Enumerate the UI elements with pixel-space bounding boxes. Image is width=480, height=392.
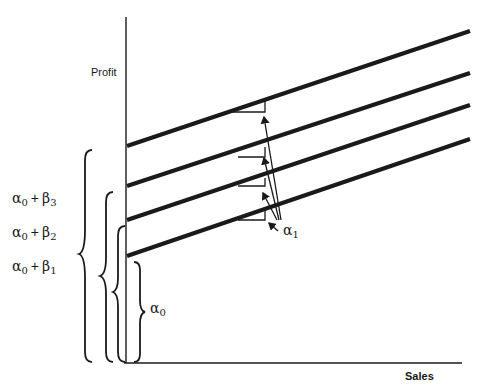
- label-alpha0-plus-beta2: α0+β2: [12, 224, 57, 242]
- label-alpha0-plus-beta3: α0+β3: [12, 190, 57, 208]
- line-group-1: [127, 105, 470, 220]
- arrow-to-triangle-0: [269, 223, 278, 231]
- brace-beta3: [79, 150, 92, 362]
- y-axis-label: Profit: [91, 66, 117, 78]
- brace-alpha0: [134, 262, 145, 362]
- label-alpha1-slope: α1: [283, 222, 299, 240]
- brace-beta1: [113, 226, 125, 362]
- label-alpha0: α0: [150, 300, 166, 318]
- regression-diagram: [0, 0, 480, 392]
- slope-triangles: [230, 100, 265, 220]
- x-axis-label: Sales: [405, 370, 434, 382]
- brace-beta2: [100, 192, 113, 362]
- label-alpha0-plus-beta1: α0+β1: [12, 258, 57, 276]
